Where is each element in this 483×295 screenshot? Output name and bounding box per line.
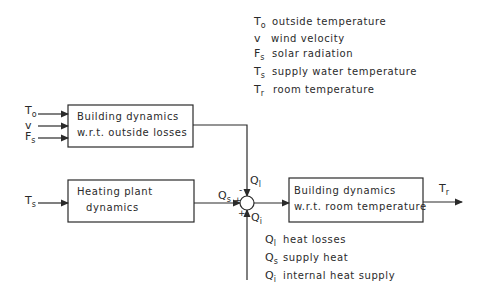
block-plant-line1: Heating plant bbox=[77, 184, 153, 200]
legend-symbol: Qi bbox=[265, 270, 276, 286]
legend-symbol: Ql bbox=[265, 234, 276, 250]
block-room-label: Building dynamics w.r.t. room temperatur… bbox=[294, 183, 427, 215]
input-ts: Ts bbox=[25, 195, 36, 211]
signal-qi: Qi bbox=[251, 212, 262, 228]
block-diagram-lines bbox=[0, 0, 483, 295]
legend-text: room temperature bbox=[273, 84, 375, 96]
legend-symbol: Qs bbox=[265, 252, 278, 268]
legend-text: supply water temperature bbox=[272, 66, 417, 78]
legend-symbol: To bbox=[254, 16, 266, 32]
block-outside-line1: Building dynamics bbox=[77, 109, 187, 125]
legend-text: outside temperature bbox=[272, 16, 386, 28]
sign-top: - bbox=[239, 186, 242, 195]
signal-qs: Qs bbox=[218, 190, 231, 206]
input-fs: Fs bbox=[25, 131, 36, 147]
legend-text: solar radiation bbox=[272, 48, 353, 60]
legend-text: heat losses bbox=[283, 234, 346, 246]
block-room-line2: w.r.t. room temperature bbox=[294, 199, 427, 215]
block-plant-line2: dynamics bbox=[77, 200, 153, 216]
block-outside-line2: w.r.t. outside losses bbox=[77, 125, 187, 141]
legend-text: wind velocity bbox=[271, 33, 345, 45]
signal-ql: Ql bbox=[250, 175, 261, 191]
block-plant-label: Heating plant dynamics bbox=[77, 184, 153, 216]
signal-tr: Tr bbox=[439, 183, 449, 199]
legend-symbol: Tr bbox=[254, 84, 264, 100]
legend-text: internal heat supply bbox=[283, 270, 395, 282]
legend-symbol: Ts bbox=[254, 66, 265, 82]
legend-symbol: Fs bbox=[254, 48, 265, 64]
sign-left: + bbox=[234, 196, 242, 205]
block-outside-label: Building dynamics w.r.t. outside losses bbox=[77, 109, 187, 141]
block-room-line1: Building dynamics bbox=[294, 183, 427, 199]
sign-bottom: + bbox=[238, 209, 246, 218]
legend-text: supply heat bbox=[283, 252, 348, 264]
